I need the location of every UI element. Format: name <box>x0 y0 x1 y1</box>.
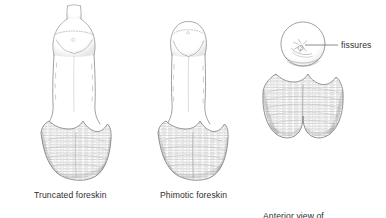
truncated-prepuce-tip <box>67 5 81 19</box>
truncated-shaft <box>48 55 100 124</box>
anatomical-illustration <box>0 0 386 218</box>
phimotic-prepuce-dome <box>171 21 207 56</box>
caption-phimotic-foreskin: Phimotic foreskin <box>160 190 227 201</box>
phimotic-scrotum <box>155 118 233 186</box>
anterior-scrotum <box>259 70 349 146</box>
truncated-prepuce-bulb <box>53 19 95 57</box>
anterior-preputial-circle <box>281 22 325 66</box>
caption-anterior-view-line1: Anterior view of <box>263 211 329 218</box>
caption-anterior-view: Anterior view of phimotic foreskin <box>263 190 329 218</box>
caption-truncated-foreskin: Truncated foreskin <box>34 190 107 201</box>
panel-phimotic-foreskin <box>155 21 233 186</box>
panel-anterior-view <box>259 22 349 146</box>
truncated-scrotum <box>38 118 116 186</box>
phimotic-shaft <box>167 55 210 124</box>
fissures-label: fissures <box>341 40 371 50</box>
panel-truncated-foreskin <box>38 5 116 186</box>
